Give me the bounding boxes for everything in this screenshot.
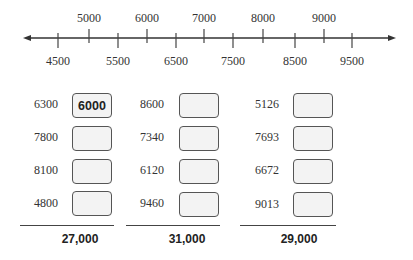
sum-underline: [240, 225, 336, 226]
given-number: 6300: [34, 97, 58, 112]
given-number: 9460: [140, 196, 164, 211]
tick-label-bottom: 8500: [283, 54, 307, 69]
group-total: 31,000: [169, 232, 206, 246]
given-number: 7800: [34, 130, 58, 145]
answer-box[interactable]: [293, 192, 333, 217]
tick-label-bottom: 9500: [340, 54, 364, 69]
given-number: 6120: [140, 163, 164, 178]
left-arrow-icon: [23, 35, 31, 41]
tick-label-top: 9000: [312, 11, 336, 26]
right-arrow-icon: [388, 35, 396, 41]
answer-box[interactable]: 6000: [72, 93, 112, 118]
number-line: 5000 6000 7000 8000 9000 4500 5500 6500 …: [0, 0, 413, 80]
given-number: 8100: [34, 163, 58, 178]
given-number: 7693: [255, 130, 279, 145]
answer-box[interactable]: [179, 126, 219, 151]
group-total: 27,000: [62, 232, 99, 246]
sum-underline: [126, 225, 220, 226]
given-number: 4800: [34, 196, 58, 211]
tick-label-bottom: 4500: [46, 54, 70, 69]
answer-box[interactable]: [72, 159, 112, 184]
tick-label-top: 8000: [251, 11, 275, 26]
answer-box[interactable]: [72, 191, 112, 216]
answer-box[interactable]: [293, 126, 333, 151]
tick-label-bottom: 5500: [106, 54, 130, 69]
answer-box[interactable]: [179, 159, 219, 184]
given-number: 8600: [140, 97, 164, 112]
given-number: 9013: [255, 197, 279, 212]
given-number: 7340: [140, 130, 164, 145]
given-number: 6672: [255, 163, 279, 178]
group-total: 29,000: [281, 232, 318, 246]
tick-label-bottom: 6500: [164, 54, 188, 69]
answer-box[interactable]: [293, 159, 333, 184]
given-number: 5126: [255, 97, 279, 112]
answer-box[interactable]: [179, 192, 219, 217]
tick-label-top: 5000: [77, 11, 101, 26]
sum-underline: [20, 225, 114, 226]
tick-label-top: 7000: [192, 11, 216, 26]
answer-box[interactable]: [293, 93, 333, 118]
answer-box[interactable]: [72, 126, 112, 151]
tick-label-top: 6000: [135, 11, 159, 26]
answer-box[interactable]: [179, 93, 219, 118]
tick-label-bottom: 7500: [221, 54, 245, 69]
